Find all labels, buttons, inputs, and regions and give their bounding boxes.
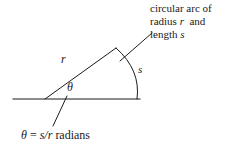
arc-callout-label: circular arc of radius r and length s: [150, 2, 212, 41]
formula-unit: radians: [55, 128, 90, 142]
callout-line-2-prefix: radius: [150, 15, 177, 27]
arc-length-label: s: [138, 63, 142, 76]
radian-formula-label: θ = s/r radians: [21, 128, 90, 142]
radius-line: [45, 48, 116, 99]
callout-line-3: length s: [150, 28, 212, 41]
formula-equals: =: [30, 128, 37, 142]
formula-expression: s/r: [40, 128, 53, 142]
callout-line-2-suffix: and: [189, 15, 205, 27]
radius-label: r: [61, 52, 66, 66]
angle-label: θ: [67, 80, 73, 94]
callout-leader-line: [120, 33, 152, 61]
callout-line-3-prefix: length: [150, 28, 178, 40]
figure-canvas: circular arc of radius r and length s r …: [0, 0, 246, 152]
callout-arc-var: s: [180, 28, 184, 40]
callout-line-2: radius r and: [150, 15, 212, 28]
callout-line-1: circular arc of: [150, 2, 212, 15]
angle-leader-line: [53, 96, 67, 126]
